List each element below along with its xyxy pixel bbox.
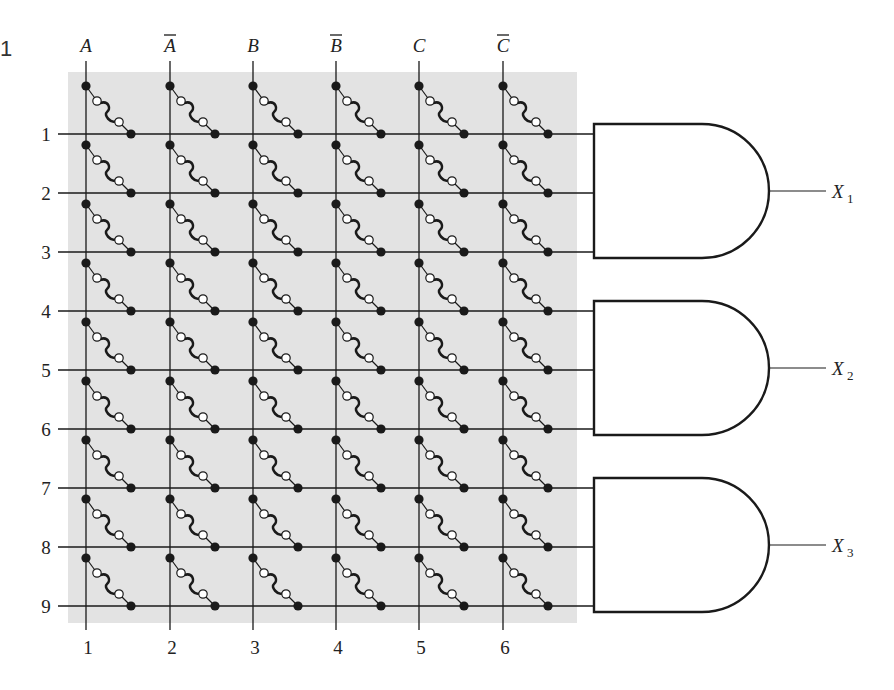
and-gate-body-icon bbox=[594, 124, 769, 258]
junction-dot-icon bbox=[459, 542, 468, 551]
junction-dot-icon bbox=[543, 424, 552, 433]
junction-dot-icon bbox=[248, 140, 257, 149]
open-terminal-icon bbox=[93, 451, 101, 459]
column-number-6: 6 bbox=[500, 637, 510, 658]
junction-dot-icon bbox=[331, 317, 340, 326]
junction-dot-icon bbox=[414, 258, 423, 267]
column-number-1: 1 bbox=[83, 637, 93, 658]
open-terminal-icon bbox=[115, 295, 123, 303]
column-label-6: C bbox=[497, 35, 510, 56]
junction-dot-icon bbox=[331, 376, 340, 385]
junction-dot-icon bbox=[459, 129, 468, 138]
junction-dot-icon bbox=[126, 601, 135, 610]
open-terminal-icon bbox=[177, 215, 185, 223]
open-terminal-icon bbox=[448, 531, 456, 539]
junction-dot-icon bbox=[81, 81, 90, 90]
open-terminal-icon bbox=[426, 451, 434, 459]
column-label-3: B bbox=[247, 35, 259, 56]
output-label-X2: X bbox=[831, 358, 845, 379]
junction-dot-icon bbox=[331, 435, 340, 444]
junction-dot-icon bbox=[459, 424, 468, 433]
junction-dot-icon bbox=[165, 435, 174, 444]
open-terminal-icon bbox=[282, 295, 290, 303]
open-terminal-icon bbox=[260, 510, 268, 518]
open-terminal-icon bbox=[93, 215, 101, 223]
junction-dot-icon bbox=[165, 258, 174, 267]
column-label-1: A bbox=[78, 35, 92, 56]
open-terminal-icon bbox=[510, 215, 518, 223]
open-terminal-icon bbox=[177, 333, 185, 341]
open-terminal-icon bbox=[365, 295, 373, 303]
junction-dot-icon bbox=[414, 140, 423, 149]
row-number-4: 4 bbox=[41, 301, 51, 322]
and-gate-2: X2 bbox=[594, 301, 854, 435]
row-number-3: 3 bbox=[41, 242, 51, 263]
output-subscript: 1 bbox=[847, 191, 854, 206]
junction-dot-icon bbox=[414, 376, 423, 385]
open-terminal-icon bbox=[532, 118, 540, 126]
junction-dot-icon bbox=[126, 542, 135, 551]
open-terminal-icon bbox=[448, 295, 456, 303]
and-gate-1: X1 bbox=[594, 124, 854, 258]
output-subscript: 3 bbox=[847, 545, 854, 560]
open-terminal-icon bbox=[365, 354, 373, 362]
row-number-1: 1 bbox=[41, 124, 51, 145]
junction-dot-icon bbox=[414, 553, 423, 562]
and-gate-3: X3 bbox=[594, 478, 854, 612]
open-terminal-icon bbox=[115, 413, 123, 421]
junction-dot-icon bbox=[293, 247, 302, 256]
open-terminal-icon bbox=[532, 531, 540, 539]
junction-dot-icon bbox=[81, 376, 90, 385]
open-terminal-icon bbox=[115, 531, 123, 539]
open-terminal-icon bbox=[365, 236, 373, 244]
junction-dot-icon bbox=[210, 483, 219, 492]
junction-dot-icon bbox=[331, 553, 340, 562]
junction-dot-icon bbox=[543, 365, 552, 374]
open-terminal-icon bbox=[365, 531, 373, 539]
open-terminal-icon bbox=[510, 156, 518, 164]
junction-dot-icon bbox=[543, 247, 552, 256]
open-terminal-icon bbox=[448, 177, 456, 185]
junction-dot-icon bbox=[165, 81, 174, 90]
junction-dot-icon bbox=[331, 494, 340, 503]
open-terminal-icon bbox=[532, 236, 540, 244]
column-number-4: 4 bbox=[333, 637, 343, 658]
row-number-5: 5 bbox=[41, 360, 51, 381]
junction-dot-icon bbox=[498, 140, 507, 149]
junction-dot-icon bbox=[210, 365, 219, 374]
column-number-3: 3 bbox=[250, 637, 260, 658]
junction-dot-icon bbox=[414, 494, 423, 503]
open-terminal-icon bbox=[199, 236, 207, 244]
open-terminal-icon bbox=[365, 590, 373, 598]
open-terminal-icon bbox=[343, 156, 351, 164]
junction-dot-icon bbox=[543, 483, 552, 492]
junction-dot-icon bbox=[293, 424, 302, 433]
junction-dot-icon bbox=[543, 188, 552, 197]
open-terminal-icon bbox=[199, 531, 207, 539]
junction-dot-icon bbox=[376, 424, 385, 433]
open-terminal-icon bbox=[426, 392, 434, 400]
column-number-labels: 123456 bbox=[83, 637, 510, 658]
junction-dot-icon bbox=[165, 376, 174, 385]
open-terminal-icon bbox=[343, 215, 351, 223]
junction-dot-icon bbox=[81, 435, 90, 444]
junction-dot-icon bbox=[498, 553, 507, 562]
open-terminal-icon bbox=[260, 156, 268, 164]
junction-dot-icon bbox=[126, 188, 135, 197]
junction-dot-icon bbox=[331, 258, 340, 267]
junction-dot-icon bbox=[459, 247, 468, 256]
open-terminal-icon bbox=[260, 451, 268, 459]
open-terminal-icon bbox=[365, 118, 373, 126]
row-number-labels: 123456789 bbox=[41, 124, 51, 617]
open-terminal-icon bbox=[510, 569, 518, 577]
open-terminal-icon bbox=[343, 510, 351, 518]
open-terminal-icon bbox=[282, 177, 290, 185]
open-terminal-icon bbox=[199, 177, 207, 185]
open-terminal-icon bbox=[343, 392, 351, 400]
open-terminal-icon bbox=[282, 354, 290, 362]
junction-dot-icon bbox=[414, 435, 423, 444]
junction-dot-icon bbox=[331, 140, 340, 149]
junction-dot-icon bbox=[498, 317, 507, 326]
junction-dot-icon bbox=[331, 199, 340, 208]
open-terminal-icon bbox=[115, 177, 123, 185]
